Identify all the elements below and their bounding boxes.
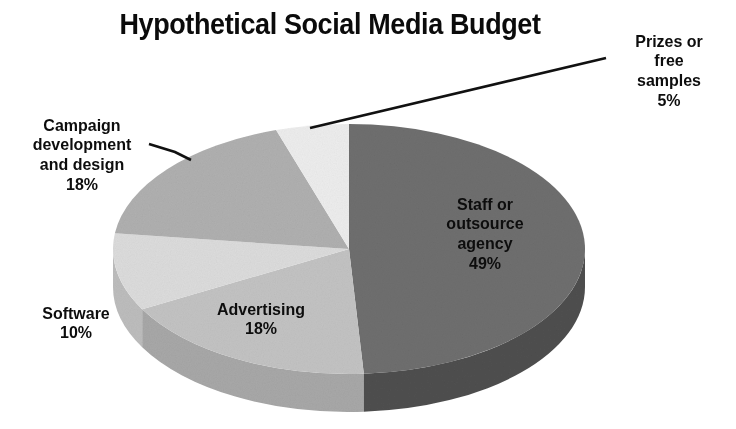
slice-label-software-percent: 10% [16,323,136,343]
slice-label-software-text: Software [42,304,109,323]
slice-label-advertising: Advertising 18% [191,280,332,359]
slice-label-prizes-text: Prizes or free samples [635,32,703,90]
slice-label-advertising-percent: 18% [191,319,332,339]
leader-line-campaign [149,144,191,160]
slice-label-campaign-percent: 18% [12,175,151,195]
slice-label-campaign-text: Campaign development and design [33,116,132,174]
slice-label-prizes-percent: 5% [612,91,727,111]
slice-label-campaign: Campaign development and design 18% [12,96,151,214]
slice-label-software: Software 10% [16,284,136,363]
leader-line-prizes [310,58,606,128]
slice-label-staff: Staff or outsource agency 49% [405,175,565,293]
slice-label-staff-text: Staff or outsource agency [446,195,523,253]
slice-label-staff-percent: 49% [405,254,565,274]
pie-chart-figure: Hypothetical Social Media Budget [0,0,736,429]
slice-label-advertising-text: Advertising [217,300,305,319]
slice-label-prizes: Prizes or free samples 5% [612,12,727,130]
